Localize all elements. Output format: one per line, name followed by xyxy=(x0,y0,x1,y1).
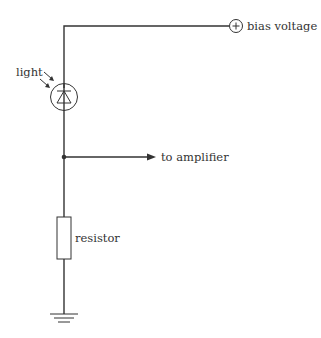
bias-voltage-label: bias voltage xyxy=(247,19,317,33)
resistor-label: resistor xyxy=(75,231,120,245)
photodiode-circuit-diagram: bias voltage light to amplifier resistor xyxy=(0,0,321,338)
to-amplifier-label: to amplifier xyxy=(161,150,229,164)
bias-wire xyxy=(64,26,229,88)
output-arrow-icon xyxy=(64,154,156,161)
photodiode-icon xyxy=(51,84,78,111)
ground-icon xyxy=(50,314,78,322)
resistor-icon xyxy=(57,217,71,259)
bias-terminal-icon xyxy=(230,20,243,33)
light-label: light xyxy=(16,65,43,79)
